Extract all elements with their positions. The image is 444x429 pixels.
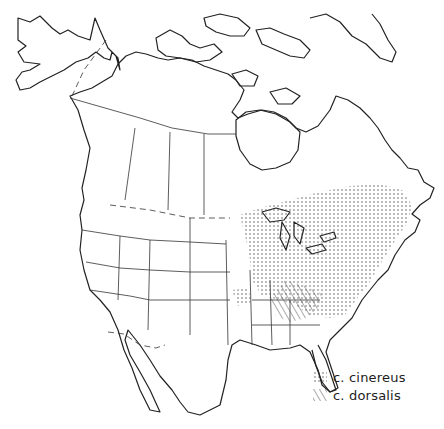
canada-provinces <box>70 98 236 215</box>
legend-label: c. cinereus <box>333 370 406 385</box>
us-canada-border-west <box>110 205 230 218</box>
arctic-island <box>204 14 250 36</box>
dots-pattern-icon <box>313 371 327 383</box>
hatch-pattern-icon <box>313 389 327 401</box>
range-map <box>0 0 444 429</box>
arctic-island <box>270 88 300 104</box>
arctic-island <box>256 28 310 58</box>
range-cinereus <box>240 184 412 318</box>
arctic-island <box>232 70 258 86</box>
alaska-outline <box>16 16 120 90</box>
canada-alaska-border <box>72 40 106 96</box>
greenland-outline <box>310 14 396 62</box>
legend-label: c. dorsalis <box>333 388 401 403</box>
hudson-bay <box>236 110 300 170</box>
legend-item-dorsalis: c. dorsalis <box>313 386 406 404</box>
legend-item-cinereus: c. cinereus <box>313 368 406 386</box>
arctic-island <box>156 30 222 62</box>
range-cinereus-outlier <box>232 288 252 306</box>
legend: c. cinereus c. dorsalis <box>313 368 406 404</box>
